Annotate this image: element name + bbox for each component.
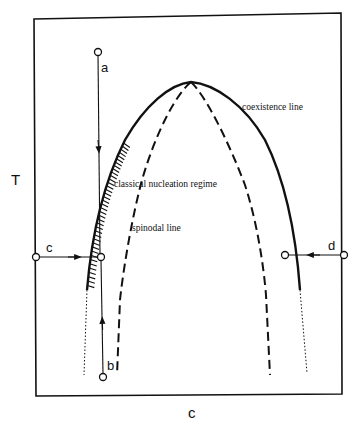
path-c-start-point bbox=[33, 254, 40, 261]
phase-diagram: a b c d coexistence line classical nucle… bbox=[0, 0, 360, 427]
hatch-tick bbox=[114, 165, 121, 169]
path-b-label: b bbox=[107, 358, 114, 373]
coexistence-line-label: coexistence line bbox=[242, 102, 303, 112]
hatch-tick bbox=[122, 146, 128, 150]
hatch-tick bbox=[121, 149, 127, 153]
y-axis-label: T bbox=[11, 171, 20, 188]
hatch-tick bbox=[107, 186, 114, 190]
hatch-tick bbox=[92, 247, 99, 250]
path-a-label: a bbox=[101, 60, 109, 75]
hatch-tick bbox=[116, 159, 122, 163]
path-a-line bbox=[98, 55, 100, 255]
path-c-label: c bbox=[46, 240, 53, 255]
hatch-tick bbox=[124, 143, 130, 148]
hatch-tick bbox=[118, 155, 124, 159]
spinodal-line-right bbox=[191, 82, 270, 375]
coexistence-line-right-dotted bbox=[300, 290, 307, 373]
plot-frame bbox=[34, 13, 342, 396]
hatch-tick bbox=[103, 196, 110, 199]
hatch-tick bbox=[98, 219, 105, 222]
path-d-label: d bbox=[328, 238, 335, 253]
hatch-tick bbox=[102, 200, 109, 203]
hatch-tick bbox=[99, 211, 106, 214]
nucleation-regime-hatching bbox=[87, 143, 129, 288]
hatch-tick bbox=[104, 193, 111, 196]
path-a-start-point bbox=[95, 49, 102, 56]
hatch-tick bbox=[113, 169, 120, 173]
path-b-line bbox=[101, 260, 103, 374]
hatch-tick bbox=[106, 189, 113, 193]
hatch-tick bbox=[119, 152, 125, 156]
coexistence-line-left-dotted bbox=[84, 290, 87, 375]
quench-end-point-left bbox=[98, 254, 105, 261]
hatch-tick bbox=[100, 208, 107, 211]
hatch-tick bbox=[95, 231, 102, 234]
hatch-tick bbox=[101, 204, 108, 207]
nucleation-regime-label: classical nucleation regime bbox=[114, 179, 217, 189]
hatch-tick bbox=[90, 259, 97, 261]
path-b-start-point bbox=[100, 374, 107, 381]
hatch-tick bbox=[93, 243, 100, 246]
hatch-tick bbox=[92, 251, 99, 254]
quench-end-point-right bbox=[282, 252, 289, 259]
hatch-tick bbox=[115, 162, 122, 166]
x-axis-label: c bbox=[188, 404, 196, 421]
path-d-start-point bbox=[341, 252, 348, 259]
spinodal-line-label: spinodal line bbox=[132, 223, 181, 233]
hatch-tick bbox=[111, 172, 118, 176]
